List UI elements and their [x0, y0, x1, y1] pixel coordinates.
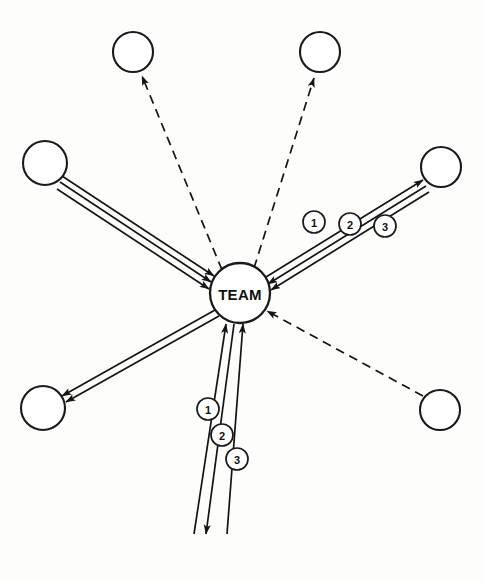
link-upper-left-1: [62, 176, 214, 276]
badge-b-3-label: 3: [234, 454, 240, 466]
badge-ur-2-label: 2: [347, 219, 353, 231]
link-upper-left-2: [60, 182, 211, 282]
sequence-badges-layer: 123123: [197, 211, 396, 470]
badge-ur-1: 1: [303, 211, 325, 233]
team-network-diagram: TEAM 123123: [0, 0, 484, 582]
link-dashed-top-left: [142, 76, 222, 270]
link-upper-left-3: [57, 189, 209, 289]
node-left[interactable]: [23, 141, 67, 185]
badge-b-1-label: 1: [205, 404, 211, 416]
center-node-label: TEAM: [218, 286, 262, 303]
diagram-canvas: TEAM 123123: [0, 0, 484, 582]
badge-b-2-label: 2: [219, 430, 225, 442]
badge-ur-2: 2: [339, 213, 361, 235]
link-dashed-bottom-right: [267, 311, 423, 396]
link-lower-left-1: [62, 310, 215, 396]
link-dashed-top-right: [254, 78, 314, 268]
link-upper-right-3: [271, 192, 429, 290]
node-top-right[interactable]: [300, 32, 340, 72]
badge-ur-1-label: 1: [311, 217, 317, 229]
badge-ur-3: 3: [374, 215, 396, 237]
badge-b-3: 3: [226, 448, 248, 470]
node-top-left[interactable]: [113, 32, 153, 72]
link-lower-left-2: [66, 316, 219, 402]
badge-ur-3-label: 3: [382, 221, 388, 233]
center-node-layer: TEAM: [210, 263, 270, 323]
node-right[interactable]: [421, 147, 461, 187]
node-bottom-right[interactable]: [420, 390, 460, 430]
badge-b-1: 1: [197, 398, 219, 420]
badge-b-2: 2: [211, 424, 233, 446]
node-bottom-left[interactable]: [21, 386, 65, 430]
